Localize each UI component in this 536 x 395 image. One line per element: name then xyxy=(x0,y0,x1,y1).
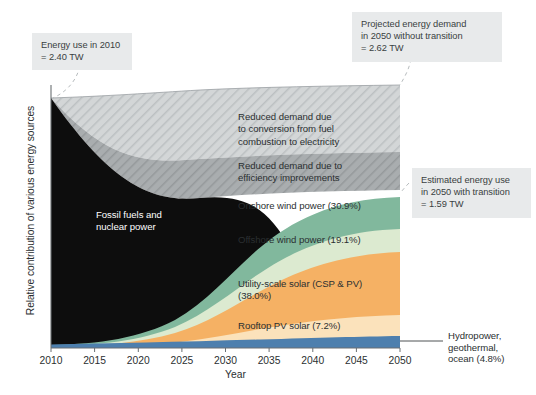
band-label-fossil: Fossil fuels and nuclear power xyxy=(96,209,162,234)
band-label-rooftop: Rooftop PV solar (7.2%) xyxy=(238,320,340,332)
x-tick-2035: 2035 xyxy=(258,355,281,366)
band-label-conversion: Reduced demand due to conversion from fu… xyxy=(238,111,339,148)
y-axis-title: Relative contribution of various energy … xyxy=(25,86,36,336)
x-tick-2015: 2015 xyxy=(83,355,106,366)
band-label-efficiency: Reduced demand due to efficiency improve… xyxy=(238,160,342,185)
leader-line-2010 xyxy=(53,66,80,98)
x-tick-2040: 2040 xyxy=(301,355,324,366)
callout-estimated-use-2050: Estimated energy use in 2050 with transi… xyxy=(412,168,531,218)
chart-figure: 2010 2015 2020 2025 2030 2035 2040 2045 … xyxy=(0,0,536,395)
band-label-offshore: Offshore wind power (19.1%) xyxy=(238,234,361,246)
band-label-onshore: Onshore wind power (30.9%) xyxy=(238,200,361,212)
callout-energy-use-2010: Energy use in 2010 = 2.40 TW xyxy=(32,33,132,70)
band-label-utility: Utility-scale solar (CSP & PV) (38.0%) xyxy=(238,278,362,303)
x-tick-2045: 2045 xyxy=(345,355,368,366)
leader-line-2050-no-transition xyxy=(400,59,411,85)
x-tick-2030: 2030 xyxy=(214,355,237,366)
x-tick-2010: 2010 xyxy=(40,355,63,366)
callout-projected-demand-2050: Projected energy demand in 2050 without … xyxy=(352,12,502,62)
x-tick-2020: 2020 xyxy=(127,355,150,366)
x-tick-2050: 2050 xyxy=(389,355,412,366)
x-axis-title: Year xyxy=(225,369,246,380)
x-axis-ticks xyxy=(51,348,400,352)
leader-line-2050-with-transition xyxy=(400,183,409,193)
x-tick-2025: 2025 xyxy=(170,355,193,366)
band-label-hydro: Hydropower, geothermal, ocean (4.8%) xyxy=(448,330,504,365)
